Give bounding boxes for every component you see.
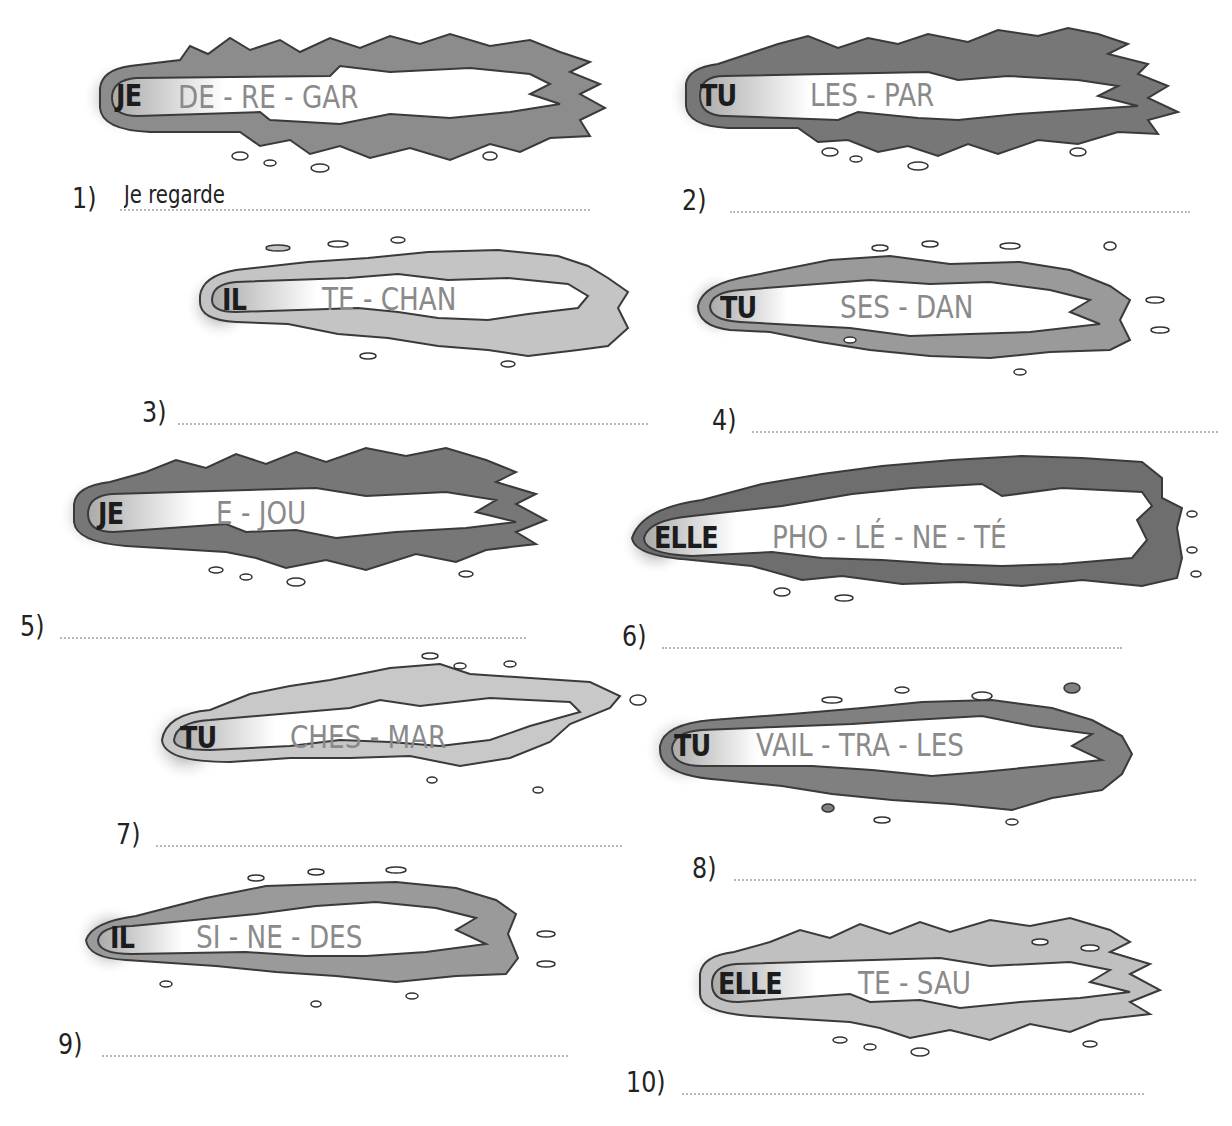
comet-icon	[678, 24, 1198, 174]
comet-icon	[66, 442, 566, 592]
comet-illustration: TU LES - PAR	[678, 24, 1198, 174]
answer-row: 9)	[58, 1028, 568, 1061]
pronoun-label: TU	[674, 728, 710, 763]
answer-line	[120, 183, 590, 211]
answer-row: 10)	[626, 1066, 1144, 1099]
answer-input[interactable]	[666, 619, 1043, 647]
pronoun-label: TU	[700, 78, 736, 113]
answer-line	[734, 853, 1196, 881]
answer-row: 6)	[622, 620, 1122, 653]
pronoun-label: TU	[720, 290, 756, 325]
pronoun-label: JE	[116, 78, 141, 113]
answer-row: 8)	[692, 852, 1196, 885]
answer-input[interactable]	[686, 1065, 1065, 1093]
answer-input[interactable]	[734, 183, 1111, 211]
answer-line	[682, 1067, 1144, 1095]
pronoun-label: IL	[110, 920, 134, 955]
scrambled-syllables: E - JOU	[216, 494, 306, 532]
exercise-number: 4)	[712, 404, 746, 437]
comet-illustration: ELLE PHO - LÉ - NE - TÉ	[622, 448, 1212, 608]
answer-line	[730, 185, 1190, 213]
exercise-number: 3)	[142, 396, 173, 429]
scrambled-syllables: VAIL - TRA - LES	[756, 726, 964, 764]
answer-line	[102, 1029, 568, 1057]
pronoun-label: ELLE	[718, 966, 782, 1001]
scrambled-syllables: TE - SAU	[858, 964, 971, 1002]
answer-row: 5)	[20, 610, 526, 643]
answer-input[interactable]	[182, 395, 567, 423]
exercise-number: 9)	[58, 1028, 95, 1061]
scrambled-syllables: DE - RE - GAR	[178, 78, 358, 116]
comet-illustration: ELLE TE - SAU	[690, 912, 1190, 1062]
answer-line	[662, 621, 1122, 649]
comet-illustration: IL TE - CHAN	[188, 238, 648, 378]
answer-line	[752, 405, 1218, 433]
exercise-number: 5)	[20, 610, 54, 643]
exercise-number: 8)	[692, 852, 728, 885]
scrambled-syllables: CHES - MAR	[290, 718, 446, 756]
scrambled-syllables: PHO - LÉ - NE - TÉ	[772, 518, 1007, 556]
scrambled-syllables: SES - DAN	[840, 288, 973, 326]
comet-illustration: IL SI - NE - DES	[76, 864, 586, 1014]
answer-input[interactable]	[124, 181, 509, 209]
pronoun-label: IL	[222, 282, 246, 317]
pronoun-label: TU	[180, 720, 216, 755]
comet-illustration: JE DE - RE - GAR	[90, 28, 610, 168]
answer-row: 1)	[72, 182, 590, 215]
scrambled-syllables: TE - CHAN	[322, 280, 456, 318]
answer-input[interactable]	[160, 817, 542, 845]
answer-row: 7)	[116, 818, 622, 851]
answer-row: 2)	[682, 184, 1190, 217]
answer-line	[60, 611, 526, 639]
answer-input[interactable]	[106, 1027, 488, 1055]
comet-illustration: TU CHES - MAR	[150, 650, 660, 800]
answer-input[interactable]	[64, 609, 446, 637]
scrambled-syllables: SI - NE - DES	[196, 918, 362, 956]
exercise-number: 6)	[622, 620, 656, 653]
exercise-number: 7)	[116, 818, 150, 851]
exercise-number: 1)	[72, 182, 113, 215]
pronoun-label: ELLE	[654, 520, 718, 555]
answer-line	[178, 397, 648, 425]
exercise-number: 2)	[682, 184, 723, 217]
answer-input[interactable]	[738, 851, 1117, 879]
comet-illustration: TU SES - DAN	[690, 240, 1190, 390]
exercise-number: 10)	[626, 1066, 674, 1099]
answer-row: 4)	[712, 404, 1218, 437]
answer-input[interactable]	[756, 403, 1138, 431]
pronoun-label: JE	[98, 496, 123, 531]
answer-line	[156, 819, 622, 847]
comet-illustration: JE E - JOU	[66, 442, 566, 592]
comet-illustration: TU VAIL - TRA - LES	[652, 680, 1192, 830]
scrambled-syllables: LES - PAR	[810, 76, 934, 114]
answer-row: 3)	[142, 396, 648, 429]
